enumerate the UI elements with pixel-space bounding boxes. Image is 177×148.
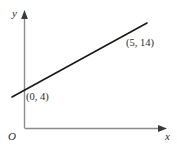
coordinate-plane-figure: y x O (0, 4) (5, 14) <box>0 0 177 148</box>
y-axis-label: y <box>12 8 17 19</box>
graph-canvas <box>0 0 177 148</box>
point-label-upper: (5, 14) <box>126 38 154 49</box>
plotted-line <box>12 23 147 97</box>
origin-label: O <box>8 131 16 142</box>
point-label-y-intercept: (0, 4) <box>26 92 49 103</box>
x-axis-label: x <box>165 131 170 142</box>
y-axis-arrowhead <box>21 10 28 19</box>
